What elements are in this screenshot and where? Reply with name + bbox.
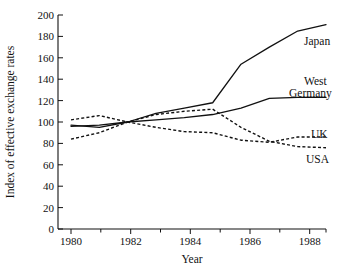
series-group: [71, 25, 326, 148]
y-tick-label: 200: [38, 9, 55, 21]
y-axis-title: Index of effective exchange rates: [4, 45, 17, 198]
y-axis-ticks: [58, 15, 63, 229]
x-tick-label: 1988: [299, 235, 322, 247]
series-label-west-germany-line2: Germany: [289, 87, 332, 100]
series-label-japan: Japan: [304, 35, 330, 48]
y-tick-label: 0: [49, 223, 55, 235]
y-tick-label: 40: [43, 180, 55, 192]
x-axis-title: Year: [181, 253, 202, 265]
y-tick-label: 80: [43, 137, 55, 149]
series-line-west-germany: [71, 97, 326, 126]
y-tick-label: 160: [38, 52, 55, 64]
y-tick-label: 100: [38, 116, 55, 128]
exchange-rate-line-chart: Index of effective exchange rates 200 18…: [0, 0, 347, 276]
x-tick-label: 1980: [60, 235, 83, 247]
y-axis-tick-labels: 200 180 160 140 120 100 80 60 40 20 0: [38, 9, 55, 235]
series-label-usa: USA: [306, 153, 330, 165]
x-tick-label: 1986: [239, 235, 262, 247]
series-line-usa: [71, 109, 326, 148]
series-line-uk: [71, 116, 326, 143]
x-tick-label: 1982: [120, 235, 142, 247]
x-axis-tick-labels: 1980 1982 1984 1986 1988: [60, 235, 321, 247]
series-label-uk: UK: [311, 128, 328, 140]
x-axis-ticks: [71, 229, 326, 234]
y-tick-label: 140: [38, 73, 55, 85]
x-tick-label: 1984: [179, 235, 202, 247]
y-tick-label: 120: [38, 95, 55, 107]
y-tick-label: 20: [43, 202, 55, 214]
series-label-west-germany-line1: West: [304, 75, 328, 87]
series-line-japan: [71, 25, 326, 128]
chart-canvas: Index of effective exchange rates 200 18…: [0, 0, 347, 276]
y-tick-label: 60: [43, 159, 55, 171]
y-tick-label: 180: [38, 30, 55, 42]
